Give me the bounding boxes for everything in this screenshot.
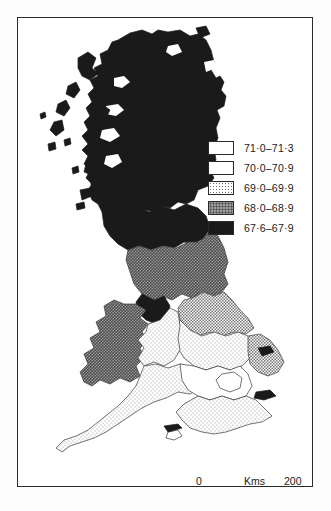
legend-swatch-fine-dots	[208, 161, 234, 175]
coast-solent	[164, 424, 182, 432]
scale-bar-labels: 0 Kms 200	[196, 473, 313, 487]
island-lewis	[78, 52, 98, 80]
legend-item: 71·0–71·3	[208, 138, 312, 157]
map-svg	[18, 18, 312, 486]
island-small-d	[64, 138, 71, 146]
legend-swatch-dense-stipple	[208, 201, 234, 215]
legend-item: 67·6–67·9	[208, 218, 312, 237]
legend-swatch-white	[208, 141, 234, 155]
legend-item: 70·0–70·9	[208, 158, 312, 177]
page-root: 71·0–71·3 70·0–70·9 69·0–69·9 68·0–68·9 …	[0, 0, 331, 511]
legend-label: 71·0–71·3	[244, 142, 294, 154]
scale-zero-label: 0	[196, 475, 202, 487]
legend-item: 68·0–68·9	[208, 198, 312, 217]
legend-swatch-medium-dots	[208, 181, 234, 195]
legend-label: 70·0–70·9	[244, 162, 294, 174]
island-small-b	[72, 166, 79, 174]
scale-unit-label: Kms	[244, 475, 265, 487]
island-small-a	[40, 112, 46, 119]
map-regions	[40, 26, 284, 452]
island-uist-north	[56, 100, 70, 116]
legend-label: 69·0–69·9	[244, 182, 294, 194]
legend-label: 68·0–68·9	[244, 202, 294, 214]
island-arran	[110, 192, 119, 202]
legend: 71·0–71·3 70·0–70·9 69·0–69·9 68·0–68·9 …	[208, 138, 312, 238]
coast-thames	[254, 390, 276, 400]
legend-item: 69·0–69·9	[208, 178, 312, 197]
region-kent-sussex	[176, 396, 272, 434]
scale-bar: 0 Kms 200	[196, 473, 313, 487]
map-frame: 71·0–71·3 70·0–70·9 69·0–69·9 68·0–68·9 …	[17, 17, 313, 487]
island-islay	[80, 188, 92, 200]
island-harris	[66, 82, 80, 98]
island-small-c	[76, 202, 85, 210]
region-wales	[80, 300, 148, 386]
scale-max-label: 200	[284, 475, 302, 487]
sea-notch-f	[204, 60, 216, 72]
island-uist-south	[50, 120, 64, 136]
island-jura	[90, 176, 100, 190]
legend-swatch-black	[208, 221, 234, 235]
legend-label: 67·6–67·9	[244, 222, 294, 234]
island-barra	[48, 142, 56, 151]
